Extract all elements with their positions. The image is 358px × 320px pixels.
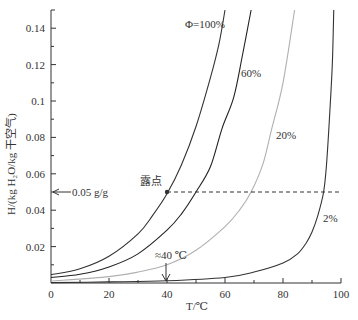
curve-60-percent bbox=[51, 10, 251, 278]
x-tick-label: 40 bbox=[162, 288, 174, 300]
y-axis-title: H/(kg H₂O/kg 干空气) bbox=[4, 113, 18, 215]
curve-100-percent bbox=[51, 10, 225, 275]
dew-point-marker bbox=[165, 190, 169, 194]
x-ticks: 020406080100 bbox=[48, 278, 350, 300]
curve-label-2: 2% bbox=[323, 212, 338, 224]
y-tick-label: 0.02 bbox=[26, 241, 45, 253]
y-tick-label: 0.04 bbox=[26, 204, 46, 216]
curve-2-percent bbox=[51, 10, 334, 283]
curve-label-60: 60% bbox=[241, 67, 261, 79]
curve-label-100: Φ=100% bbox=[185, 18, 225, 30]
annotation-40c: ≈40 ℃ bbox=[155, 249, 187, 281]
x-tick-label: 0 bbox=[48, 288, 54, 300]
annotation-0.05: 0.05 g/g bbox=[53, 186, 109, 198]
x-axis-title: T/℃ bbox=[186, 300, 208, 312]
y-tick-label: 0.14 bbox=[26, 22, 46, 34]
y-tick-label: 0.1 bbox=[31, 95, 45, 107]
x-tick-label: 80 bbox=[278, 288, 290, 300]
annotation-0.05-text: 0.05 g/g bbox=[72, 186, 109, 198]
psychrometric-chart: 0.020.040.060.080.10.120.14 020406080100… bbox=[0, 0, 358, 320]
dew-point-label: 露点 bbox=[140, 175, 162, 188]
curve-label-20: 20% bbox=[276, 129, 296, 141]
curves bbox=[51, 10, 334, 283]
annotation-40c-text: ≈40 ℃ bbox=[155, 249, 187, 261]
x-tick-label: 60 bbox=[220, 288, 232, 300]
curve-20-percent bbox=[51, 10, 295, 281]
axes: 0.020.040.060.080.10.120.14 020406080100 bbox=[26, 10, 350, 300]
x-tick-label: 20 bbox=[104, 288, 116, 300]
y-tick-label: 0.06 bbox=[26, 168, 46, 180]
x-tick-label: 100 bbox=[333, 288, 350, 300]
y-tick-label: 0.12 bbox=[26, 59, 45, 71]
y-tick-label: 0.08 bbox=[26, 131, 46, 143]
